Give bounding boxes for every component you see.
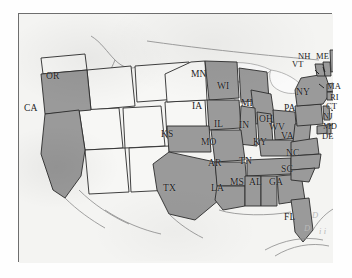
bahamas-mark-2: D <box>304 223 310 233</box>
state-label-VA[interactable]: VA <box>281 131 294 141</box>
state-label-MS[interactable]: MS <box>230 177 244 187</box>
state-label-AR[interactable]: AR <box>208 158 221 168</box>
state-label-MD[interactable]: MD <box>323 121 337 131</box>
state-label-MA[interactable]: MA <box>327 81 341 91</box>
state-label-NY[interactable]: NY <box>296 87 310 97</box>
state-label-LA[interactable]: LA <box>211 183 224 193</box>
state-label-NH[interactable]: NH <box>298 51 310 61</box>
state-label-DE[interactable]: DE <box>322 131 334 141</box>
state-label-KS[interactable]: KS <box>161 129 173 139</box>
state-label-KY[interactable]: KY <box>253 137 267 147</box>
state-label-PA[interactable]: PA <box>284 103 295 113</box>
state-label-TN[interactable]: TN <box>239 156 252 166</box>
map-plate: .sel { fill:#9a9a9a; stroke:#2b2b2b; str… <box>18 13 332 262</box>
state-label-AL[interactable]: AL <box>249 177 262 187</box>
bahamas-mark-1: D <box>312 210 318 220</box>
state-label-SC[interactable]: SC <box>281 164 293 174</box>
state-label-GA[interactable]: GA <box>269 177 283 187</box>
state-label-MI[interactable]: MI <box>241 98 253 108</box>
state-label-ME[interactable]: ME <box>316 51 329 61</box>
state-ME[interactable] <box>330 50 333 72</box>
state-label-NC[interactable]: NC <box>286 148 299 158</box>
state-label-IL[interactable]: IL <box>214 119 223 129</box>
state-label-FL[interactable]: FL <box>284 212 295 222</box>
state-IA[interactable] <box>207 100 241 130</box>
state-label-IN[interactable]: IN <box>239 120 249 130</box>
map-screenshot: .sel { fill:#9a9a9a; stroke:#2b2b2b; str… <box>0 0 352 278</box>
bahamas-mark-3: i i <box>319 226 326 236</box>
state-label-CT[interactable]: CT <box>326 101 337 111</box>
state-label-CA[interactable]: CA <box>24 103 37 113</box>
state-label-MN[interactable]: MN <box>191 69 207 79</box>
state-label-MO[interactable]: MO <box>201 137 217 147</box>
state-label-WV[interactable]: WV <box>269 122 285 132</box>
state-label-WI[interactable]: WI <box>217 81 229 91</box>
state-label-OR[interactable]: OR <box>46 71 59 81</box>
state-label-NJ[interactable]: NJ <box>323 111 333 121</box>
state-label-TX[interactable]: TX <box>163 183 176 193</box>
state-label-IA[interactable]: IA <box>192 101 202 111</box>
state-PA[interactable] <box>295 104 323 126</box>
